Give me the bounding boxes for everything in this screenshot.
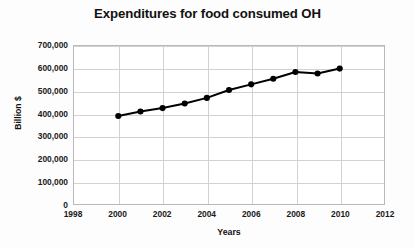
data-point-marker (226, 87, 232, 93)
x-axis-tick-label: 2002 (139, 209, 185, 219)
data-point-marker (137, 108, 143, 114)
x-axis-tick-label: 2004 (184, 209, 230, 219)
x-axis-tick-label: 2000 (95, 209, 141, 219)
chart-title: Expenditures for food consumed OH (0, 6, 415, 21)
data-series-layer (74, 46, 384, 204)
data-point-marker (204, 95, 210, 101)
data-point-marker (292, 69, 298, 75)
data-point-marker (159, 105, 165, 111)
x-axis-tick-label: 1998 (50, 209, 96, 219)
data-point-marker (314, 70, 320, 76)
x-axis-tick-label: 2006 (228, 209, 274, 219)
data-point-marker (248, 81, 254, 87)
y-axis-tick-label: 200,000 (6, 154, 68, 164)
y-axis-tick-label: 400,000 (6, 109, 68, 119)
data-point-marker (182, 101, 188, 107)
chart-figure: Expenditures for food consumed OH Billio… (0, 0, 415, 249)
x-axis-title: Years (73, 227, 385, 237)
x-axis-tick-label: 2008 (273, 209, 319, 219)
x-axis-tick-label: 2010 (317, 209, 363, 219)
data-point-marker (337, 66, 343, 72)
y-axis-tick-label: 500,000 (6, 86, 68, 96)
data-point-marker (115, 113, 121, 119)
y-axis-tick-label: 100,000 (6, 177, 68, 187)
data-point-marker (270, 76, 276, 82)
y-axis-tick-label: 600,000 (6, 63, 68, 73)
plot-area (73, 45, 385, 205)
x-axis-tick-label: 2012 (362, 209, 408, 219)
y-axis-tick-label: 700,000 (6, 40, 68, 50)
y-axis-tick-label: 300,000 (6, 131, 68, 141)
